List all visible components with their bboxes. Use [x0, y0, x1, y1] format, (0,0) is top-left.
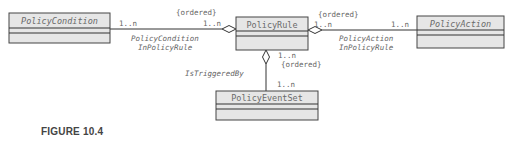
class-policy-rule[interactable]: PolicyRule: [236, 17, 308, 50]
class-policy-action[interactable]: PolicyAction: [417, 16, 504, 48]
association-name-action-line2: InPolicyRule: [339, 43, 394, 52]
aggregation-diamond-eventset: [263, 50, 270, 64]
ordered-constraint-action: {ordered}: [318, 10, 359, 19]
class-policy-event-set[interactable]: PolicyEventSet: [216, 91, 318, 120]
multiplicity-rule-end-action: 1..n: [314, 20, 332, 29]
uml-class-diagram: PolicyCondition PolicyRule PolicyAction …: [0, 0, 511, 142]
class-name: PolicyCondition: [21, 16, 98, 26]
association-name-condition-line2: InPolicyRule: [138, 43, 193, 52]
multiplicity-rule-end-condition: 1..n: [203, 19, 221, 28]
class-name: PolicyAction: [430, 19, 491, 29]
ordered-constraint-trigger: {ordered}: [281, 60, 322, 69]
class-name: PolicyEventSet: [231, 93, 303, 103]
multiplicity-condition-end: 1..n: [119, 19, 137, 28]
multiplicity-eventset-end: 1..n: [277, 80, 295, 89]
multiplicity-rule-end-trigger: 1..n: [278, 51, 296, 60]
class-name: PolicyRule: [246, 20, 297, 30]
aggregation-diamond-condition: [222, 26, 236, 33]
figure-caption: FIGURE 10.4: [41, 126, 103, 137]
association-name-action-line1: PolicyAction: [339, 34, 394, 43]
association-name-triggered-by: IsTriggeredBy: [185, 69, 244, 78]
association-name-condition-line1: PolicyCondition: [131, 34, 199, 43]
multiplicity-action-end: 1..n: [391, 20, 409, 29]
ordered-constraint-condition: {ordered}: [176, 8, 217, 17]
class-policy-condition[interactable]: PolicyCondition: [9, 13, 110, 43]
